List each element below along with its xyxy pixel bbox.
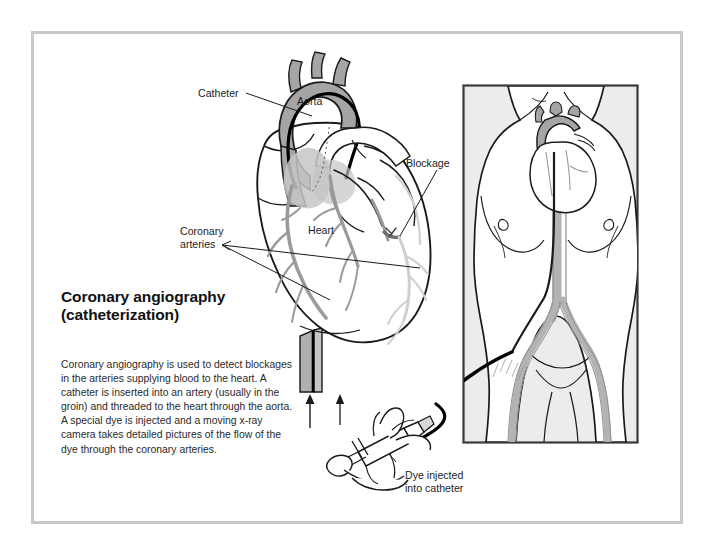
descending-aorta (300, 328, 322, 392)
label-coronary-arteries-line2: arteries (180, 238, 215, 250)
torso-panel (436, 86, 638, 443)
illustration-artwork (0, 0, 714, 553)
figure-description: Coronary angiography is used to detect b… (61, 358, 293, 457)
label-catheter: Catheter (198, 87, 239, 100)
figure-title-line1: Coronary angiography (61, 288, 225, 305)
illustration-canvas: Coronary angiography(catheterization) Co… (0, 0, 714, 553)
label-aorta: Aorta (297, 95, 322, 108)
figure-title-line2: (catheterization) (61, 306, 179, 323)
label-coronary-arteries-line1: Coronary (180, 225, 224, 237)
label-dye-line2: into catheter (405, 482, 463, 494)
label-blockage: Blockage (406, 157, 450, 170)
label-dye-line1: Dye injected (405, 469, 463, 481)
injection-direction-arrow (336, 394, 344, 425)
figure-title: Coronary angiography(catheterization) (61, 288, 225, 324)
label-heart: Heart (308, 224, 334, 237)
label-coronary-arteries: Coronaryarteries (180, 225, 224, 250)
label-dye-injected: Dye injectedinto catheter (405, 469, 463, 494)
flow-direction-arrow (306, 394, 315, 428)
